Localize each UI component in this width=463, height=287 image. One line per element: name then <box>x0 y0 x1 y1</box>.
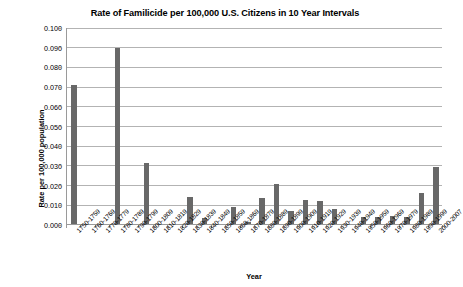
y-tick-label: 0.060 <box>20 102 62 111</box>
gridline <box>67 87 442 88</box>
y-tick-mark <box>59 146 62 147</box>
gridline <box>67 146 442 147</box>
y-axis: Rate per 100,000 population 0.0000.0100.… <box>20 28 62 225</box>
gridline <box>67 185 442 186</box>
gridline <box>67 67 442 68</box>
y-tick-label: 0.030 <box>20 161 62 170</box>
bar <box>115 48 121 224</box>
bar <box>71 85 77 224</box>
y-tick-mark <box>59 185 62 186</box>
y-tick-label: 0.020 <box>20 181 62 190</box>
y-tick-mark <box>59 126 62 127</box>
y-tick-mark <box>59 165 62 166</box>
y-tick-label: 0.100 <box>20 24 62 33</box>
gridline <box>67 205 442 206</box>
y-tick-label: 0.090 <box>20 43 62 52</box>
plot-area <box>66 28 442 225</box>
y-tick-mark <box>59 28 62 29</box>
y-tick-label: 0.010 <box>20 201 62 210</box>
gridline <box>67 165 442 166</box>
y-tick-label: 0.050 <box>20 122 62 131</box>
gridline <box>67 47 442 48</box>
y-tick-mark <box>59 67 62 68</box>
gridline <box>67 28 442 29</box>
y-tick-label: 0.080 <box>20 63 62 72</box>
y-tick-label: 0.000 <box>20 221 62 230</box>
y-tick-mark <box>59 225 62 226</box>
y-tick-mark <box>59 106 62 107</box>
x-tick-mark <box>66 225 67 228</box>
chart-title: Rate of Familicide per 100,000 U.S. Citi… <box>0 8 450 18</box>
y-tick-mark <box>59 87 62 88</box>
gridline <box>67 126 442 127</box>
y-tick-label: 0.040 <box>20 142 62 151</box>
gridline <box>67 106 442 107</box>
y-tick-mark <box>59 205 62 206</box>
y-tick-label: 0.070 <box>20 83 62 92</box>
x-axis-labels: 1750-17591760-17691770-17791780-17891790… <box>66 229 450 277</box>
x-axis-title: Year <box>66 272 442 281</box>
y-tick-mark <box>59 47 62 48</box>
